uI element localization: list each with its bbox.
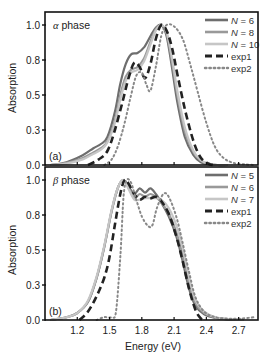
y-tick-label: 1.0 <box>26 20 40 31</box>
panel-b-legend: N = 5N = 6N = 7exp1exp2 <box>205 170 254 229</box>
legend-item: N = 8 <box>205 27 254 38</box>
y-tick-label: 0.5 <box>26 90 40 101</box>
legend-label: exp1 <box>231 206 252 217</box>
y-tick-label: 0.3 <box>26 125 40 136</box>
legend-label: N = 7 <box>231 194 254 205</box>
legend-item: N = 6 <box>205 182 254 193</box>
x-tick-label: 2.7 <box>232 325 246 336</box>
y-tick-label: 0.0 <box>26 160 40 171</box>
x-axis-title: Energy (eV) <box>125 340 181 352</box>
panel-a-tag: (a) <box>49 150 62 162</box>
legend-item: N = 7 <box>205 194 254 205</box>
y-tick-label: 0.3 <box>26 280 40 291</box>
panel-b-title-rest: phase <box>58 174 90 186</box>
panel-a-y-ticks: 0.00.30.50.81.0 <box>26 20 46 171</box>
y-tick-label: 1.0 <box>26 175 40 186</box>
legend-label: N = 6 <box>231 182 254 193</box>
legend-label: exp2 <box>231 218 252 229</box>
series-line-exp1 <box>79 180 204 320</box>
y-tick-label: 0.0 <box>26 315 40 326</box>
x-tick-label: 1.5 <box>103 325 117 336</box>
figure: 0.00.30.50.81.0 α phase (a) Absorption N… <box>0 0 269 361</box>
legend-label: N = 10 <box>231 39 259 50</box>
panel-b-y-axis-title: Absorption <box>6 225 18 275</box>
panel-b-tag: (b) <box>49 305 62 317</box>
legend-item: exp1 <box>205 51 252 62</box>
x-tick-label: 2.4 <box>199 325 213 336</box>
x-tick-label: 2.1 <box>167 325 181 336</box>
legend-item: exp2 <box>205 218 252 229</box>
panel-a: 0.00.30.50.81.0 α phase (a) Absorption N… <box>6 12 259 171</box>
legend-label: N = 8 <box>231 27 254 38</box>
panel-b-y-ticks: 0.00.30.50.81.0 <box>26 175 46 326</box>
y-tick-label: 0.8 <box>26 210 40 221</box>
legend-item: N = 10 <box>205 39 259 50</box>
series-line-n-10 <box>50 25 228 165</box>
legend-item: exp1 <box>205 206 252 217</box>
panel-a-legend: N = 6N = 8N = 10exp1exp2 <box>205 15 259 74</box>
y-tick-label: 0.8 <box>26 55 40 66</box>
x-tick-label: 1.2 <box>70 325 84 336</box>
y-tick-label: 0.5 <box>26 245 40 256</box>
series-line-n-8 <box>50 25 228 165</box>
legend-label: exp2 <box>231 63 252 74</box>
legend-label: N = 5 <box>231 170 254 181</box>
panel-a-title-rest: phase <box>59 19 91 31</box>
legend-label: N = 6 <box>231 15 254 26</box>
legend-item: exp2 <box>205 63 252 74</box>
x-tick-label: 1.8 <box>135 325 149 336</box>
panel-a-y-axis-title: Absorption <box>6 63 18 113</box>
series-line-n-6 <box>50 25 228 165</box>
legend-item: N = 5 <box>205 170 254 181</box>
legend-label: exp1 <box>231 51 252 62</box>
panel-a-title: α phase <box>53 19 90 31</box>
panel-b: 0.00.30.50.81.0 1.21.51.82.12.42.7 β pha… <box>6 167 258 352</box>
series-line-n-7 <box>50 180 244 320</box>
series-line-n-6 <box>50 180 244 320</box>
series-line-n-5 <box>50 180 244 320</box>
legend-item: N = 6 <box>205 15 254 26</box>
panel-b-title: β phase <box>52 174 90 186</box>
